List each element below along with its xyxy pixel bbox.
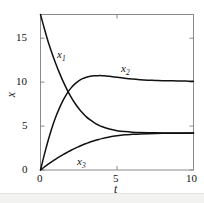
y-tick-label-5: 5 (22, 120, 28, 131)
curve-label-x3-sub: 3 (82, 161, 86, 170)
page-edge-strip (0, 193, 204, 203)
figure-container: 0 5 10 15 0 5 10 x t x1 x2 x3 (0, 0, 204, 203)
y-axis-title: x (6, 92, 18, 97)
x-tick-label-0: 0 (37, 173, 43, 184)
curve-label-x1: x1 (57, 49, 66, 63)
y-tick-label-10: 10 (16, 76, 27, 87)
plot-canvas (0, 0, 204, 203)
plot-frame (41, 15, 194, 171)
y-tick-label-0: 0 (22, 164, 28, 175)
curve-label-x3: x3 (77, 156, 86, 170)
curve-label-x2: x2 (121, 63, 130, 77)
x-tick-label-10: 10 (186, 173, 197, 184)
curve-label-x2-sub: 2 (126, 68, 130, 77)
curve-label-x1-sub: 1 (62, 54, 66, 63)
y-tick-label-15: 15 (16, 32, 27, 43)
